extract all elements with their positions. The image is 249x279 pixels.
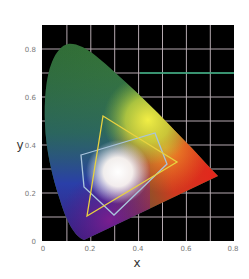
x-tick: 0.2 bbox=[84, 245, 95, 253]
x-tick: 0 bbox=[41, 245, 45, 253]
y-axis-ticks: 0 0.2 0.4 0.6 0.8 bbox=[25, 46, 37, 246]
y-tick: 0.8 bbox=[25, 46, 36, 54]
x-tick: 0.6 bbox=[180, 245, 192, 253]
y-tick: 0.6 bbox=[25, 94, 37, 102]
x-tick: 0.4 bbox=[132, 245, 144, 253]
x-tick: 0.8 bbox=[227, 245, 238, 253]
y-tick: 0.2 bbox=[25, 190, 36, 198]
x-axis-ticks: 0 0.2 0.4 0.6 0.8 bbox=[41, 245, 239, 253]
y-tick: 0.4 bbox=[25, 142, 37, 150]
chromaticity-chart: 0 0.2 0.4 0.6 0.8 0 0.2 0.4 0.6 0.8 x y bbox=[0, 0, 249, 279]
y-axis-label: y bbox=[16, 138, 23, 152]
x-axis-label: x bbox=[133, 256, 140, 270]
y-tick: 0 bbox=[32, 238, 36, 246]
